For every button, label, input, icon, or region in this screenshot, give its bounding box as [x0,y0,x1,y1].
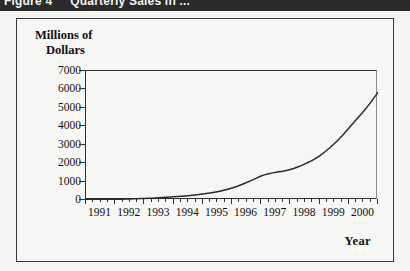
x-tick-label: 1997 [263,206,286,218]
series-line-chart [86,71,378,200]
y-tick-mark [79,181,85,182]
x-tick-label: 1999 [322,206,345,218]
figure-title: Quarterly Sales in ... [70,0,190,8]
x-tick-label: 1991 [88,206,111,218]
y-tick-mark [79,199,85,200]
x-tick-label: 1992 [117,206,140,218]
figure-number: Figure 4 [4,0,52,8]
y-tick-mark [79,162,85,163]
figure-caption-text: Figure 4Quarterly Sales in ... [4,0,190,8]
x-tick-label: 2000 [351,206,374,218]
page-canvas: Millions of Dollars 01000200030004000500… [0,11,410,271]
x-tick-label: 1996 [234,206,257,218]
y-tick-mark [79,88,85,89]
y-tick-mark [79,107,85,108]
x-tick-label: 1993 [147,206,170,218]
x-tick-label: 1994 [176,206,199,218]
y-tick-mark [79,125,85,126]
series-quarterly-sales-line [86,92,378,200]
x-tick-label: 1995 [205,206,228,218]
y-tick-mark [79,70,85,71]
figure-caption-bar: Figure 4Quarterly Sales in ... [0,0,410,11]
y-tick-mark [79,144,85,145]
figure-frame: Millions of Dollars 01000200030004000500… [16,18,394,262]
x-axis-title: Year [344,234,371,249]
x-tick-label: 1998 [293,206,316,218]
plot-area [85,70,377,199]
